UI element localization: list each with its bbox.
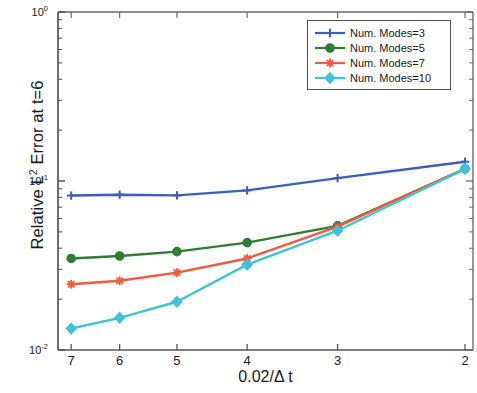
x-tick-label: 4 (235, 353, 259, 368)
data-point-marker (115, 276, 124, 285)
y-tick-label: 10-1 (0, 173, 48, 187)
legend-item[interactable]: Num. Modes=7 (313, 55, 445, 70)
y-tick-exponent: -2 (41, 342, 48, 351)
legend-marker-icon (313, 26, 347, 40)
data-point-marker (67, 280, 76, 289)
x-tick-label: 3 (326, 353, 350, 368)
legend-item[interactable]: Num. Modes=10 (313, 70, 445, 85)
x-tick-label: 5 (165, 353, 189, 368)
data-point-marker (325, 72, 335, 83)
data-point-marker (173, 247, 181, 255)
series-line-4 (66, 163, 470, 333)
y-tick-label: 100 (0, 4, 48, 18)
data-point-marker (115, 252, 123, 260)
legend-label: Num. Modes=10 (347, 72, 431, 84)
data-point-marker (333, 174, 341, 182)
legend-item[interactable]: Num. Modes=3 (313, 25, 445, 40)
legend-marker-icon (313, 41, 347, 55)
x-tick-label: 6 (108, 353, 132, 368)
data-point-marker (243, 186, 251, 194)
series-group (66, 158, 470, 334)
data-point-marker (115, 190, 123, 198)
legend-label: Num. Modes=5 (347, 42, 425, 54)
data-point-marker (326, 28, 334, 36)
legend-marker-icon (313, 56, 347, 70)
legend-marker-icon (313, 71, 347, 85)
x-tick-label: 7 (59, 353, 83, 368)
data-point-marker (460, 163, 470, 174)
data-point-marker (67, 254, 75, 262)
data-point-marker (66, 323, 76, 334)
series-line-3 (67, 164, 470, 288)
x-tick-label: 2 (453, 353, 477, 368)
data-point-marker (67, 191, 75, 199)
data-point-marker (173, 268, 182, 277)
data-point-marker (243, 238, 251, 246)
legend: Num. Modes=3Num. Modes=5Num. Modes=7Num.… (307, 20, 451, 90)
data-point-marker (115, 312, 125, 323)
data-point-marker (172, 296, 182, 307)
legend-label: Num. Modes=7 (347, 57, 425, 69)
series-line-2 (67, 165, 469, 263)
y-tick-exponent: -1 (41, 173, 48, 182)
x-axis-title: 0.02/Δ t (58, 368, 473, 386)
data-point-marker (173, 191, 181, 199)
legend-label: Num. Modes=3 (347, 27, 425, 39)
y-tick-exponent: 0 (44, 4, 48, 13)
chart-figure: Relative L2 Error at t=6 0.02/Δ t 10010-… (0, 0, 477, 393)
y-tick-label: 10-2 (0, 342, 48, 356)
data-point-marker (326, 58, 335, 67)
data-point-marker (326, 43, 334, 51)
legend-item[interactable]: Num. Modes=5 (313, 40, 445, 55)
